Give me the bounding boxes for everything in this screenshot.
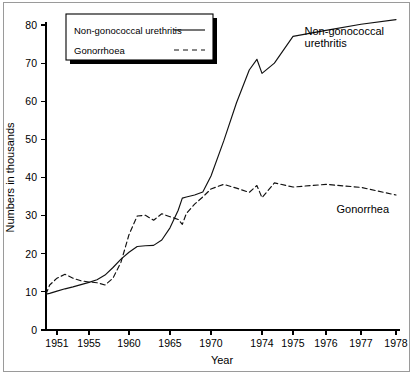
y-axis-ticks: 01020304050607080 — [25, 19, 46, 336]
x-tick-label: 1975 — [281, 337, 305, 349]
chart-legend: Non-gonococcal urethritisGonorrhoea — [66, 14, 217, 64]
x-axis-title: Year — [211, 354, 234, 366]
legend-label-1: Non-gonococcal urethritis — [74, 25, 182, 36]
annotation-gonorrhea-line: Gonorrhea — [337, 203, 390, 215]
x-tick-label: 1977 — [349, 337, 373, 349]
y-tick-label: 60 — [25, 95, 37, 107]
y-tick-label: 80 — [25, 19, 37, 31]
annotation-ngu-line: Non-gonococcal — [305, 25, 385, 37]
y-tick-label: 30 — [25, 209, 37, 221]
y-tick-label: 10 — [25, 286, 37, 298]
legend-label-2: Gonorrhoea — [74, 45, 125, 56]
x-tick-label: 1978 — [384, 337, 408, 349]
x-tick-label: 1976 — [314, 337, 338, 349]
annotation-ngu: Non-gonococcalurethritis — [305, 25, 385, 50]
x-tick-label: 1974 — [250, 337, 274, 349]
x-tick-label: 1955 — [77, 337, 101, 349]
y-tick-label: 20 — [25, 248, 37, 260]
x-tick-label: 1970 — [199, 337, 223, 349]
x-tick-label: 1965 — [158, 337, 182, 349]
x-tick-label: 1960 — [117, 337, 141, 349]
annotation-gonorrhea: Gonorrhea — [337, 203, 390, 215]
axes-group — [46, 22, 400, 330]
series-path-2 — [46, 183, 396, 294]
annotation-ngu-line: urethritis — [305, 37, 348, 49]
x-axis-ticks: 1951195519601965197019741975197619771978 — [45, 330, 408, 349]
y-tick-label: 50 — [25, 133, 37, 145]
y-axis-title: Numbers in thousands — [4, 122, 16, 233]
y-tick-label: 0 — [31, 324, 37, 336]
y-tick-label: 40 — [25, 171, 37, 183]
chart-figure: 0102030405060708019511955196019651970197… — [0, 0, 415, 377]
x-tick-label: 1951 — [45, 337, 69, 349]
line-chart-canvas: 0102030405060708019511955196019651970197… — [0, 0, 415, 377]
y-tick-label: 70 — [25, 57, 37, 69]
